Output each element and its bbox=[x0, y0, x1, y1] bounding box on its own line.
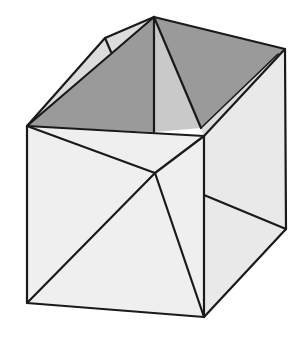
front-face bbox=[27, 126, 204, 317]
diagram-canvas bbox=[0, 0, 308, 346]
folded-box-diagram bbox=[0, 0, 308, 346]
